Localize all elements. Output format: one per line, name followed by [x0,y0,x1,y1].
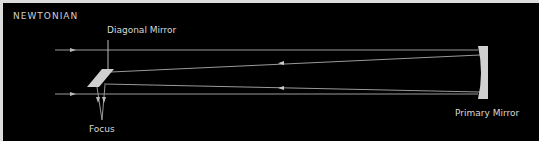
reflected-ray-bottom [104,84,480,92]
reflected-ray-top [111,55,480,72]
optical-path-diagram [3,3,539,141]
incoming-ray-bottom [55,92,478,96]
primary-mirror-label: Primary Mirror [455,108,519,118]
incoming-ray-top [55,48,478,52]
newtonian-telescope-diagram: NEWTONIAN [0,0,539,141]
primary-mirror [478,46,488,99]
focus-label: Focus [89,124,115,134]
diagonal-mirror-label: Diagonal Mirror [107,25,176,35]
focus-rays [96,85,106,120]
